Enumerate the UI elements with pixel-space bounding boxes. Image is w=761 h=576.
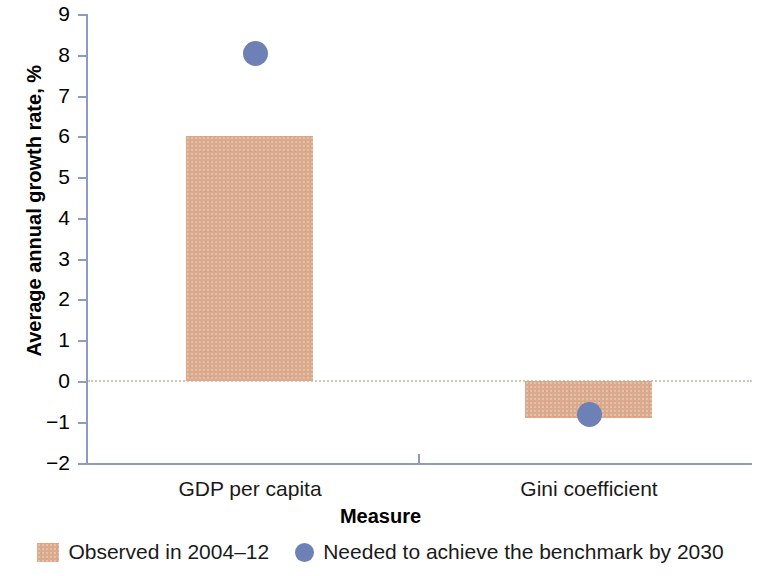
- x-tick-mark: [418, 454, 420, 465]
- y-tick-label: 6: [58, 124, 70, 148]
- y-tick-mark: [78, 422, 87, 424]
- y-tick-label: 3: [58, 247, 70, 271]
- y-tick-label: −2: [46, 451, 70, 475]
- dot-gini-coefficient: [577, 402, 602, 427]
- x-axis-title: Measure: [0, 505, 761, 528]
- y-tick-label: −1: [46, 410, 70, 434]
- y-tick-mark: [78, 14, 87, 16]
- y-tick-mark: [78, 340, 87, 342]
- chart-legend: Observed in 2004–12 Needed to achieve th…: [0, 540, 761, 564]
- y-tick-label: 7: [58, 84, 70, 108]
- y-axis-line: [86, 14, 88, 464]
- chart-figure: Average annual growth rate, % 9 8 7 6 5 …: [0, 0, 761, 576]
- y-tick-label: 5: [58, 165, 70, 189]
- legend-label-observed: Observed in 2004–12: [68, 540, 269, 564]
- legend-square-swatch-icon: [37, 543, 59, 562]
- legend-label-needed: Needed to achieve the benchmark by 2030: [323, 540, 723, 564]
- dot-gdp-per-capita: [243, 41, 268, 66]
- y-tick-mark: [78, 136, 87, 138]
- legend-circle-swatch-icon: [295, 543, 314, 562]
- y-tick-mark: [78, 259, 87, 261]
- y-tick-label: 0: [58, 369, 70, 393]
- y-axis-title: Average annual growth rate, %: [23, 97, 46, 357]
- y-tick-mark: [78, 299, 87, 301]
- y-tick-label: 2: [58, 287, 70, 311]
- y-tick-mark: [78, 218, 87, 220]
- legend-item-observed: Observed in 2004–12: [37, 540, 269, 564]
- y-tick-mark: [78, 177, 87, 179]
- y-tick-label: 1: [58, 328, 70, 352]
- y-tick-mark: [78, 55, 87, 57]
- legend-item-needed: Needed to achieve the benchmark by 2030: [295, 540, 723, 564]
- x-tick-label-gdp-per-capita: GDP per capita: [150, 477, 350, 501]
- x-tick-label-gini-coefficient: Gini coefficient: [489, 477, 689, 501]
- y-tick-label: 9: [58, 2, 70, 26]
- y-tick-label: 8: [58, 43, 70, 67]
- y-tick-mark: [78, 381, 87, 383]
- bar-gdp-per-capita: [186, 136, 313, 381]
- y-tick-mark: [78, 463, 87, 465]
- y-tick-label: 4: [58, 206, 70, 230]
- y-tick-mark: [78, 96, 87, 98]
